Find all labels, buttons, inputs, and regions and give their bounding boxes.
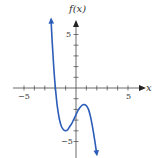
- curve-end-arrow-icon: [93, 150, 99, 156]
- curve-start-arrow-icon: [49, 18, 55, 24]
- x-axis-label: x: [146, 83, 152, 93]
- y-tick-label-neg5: −5: [61, 138, 73, 146]
- x-tick-label-5: 5: [126, 93, 131, 101]
- y-axis-label: f(x): [69, 4, 86, 14]
- x-tick-label-neg5: −5: [18, 93, 30, 101]
- y-axis-arrow-icon: [73, 20, 79, 27]
- y-tick-label-5: 5: [66, 31, 71, 39]
- function-plot: [0, 0, 156, 158]
- curve-f-of-x: [51, 20, 97, 155]
- axes: [13, 20, 146, 158]
- x-axis-arrow-icon: [139, 85, 146, 91]
